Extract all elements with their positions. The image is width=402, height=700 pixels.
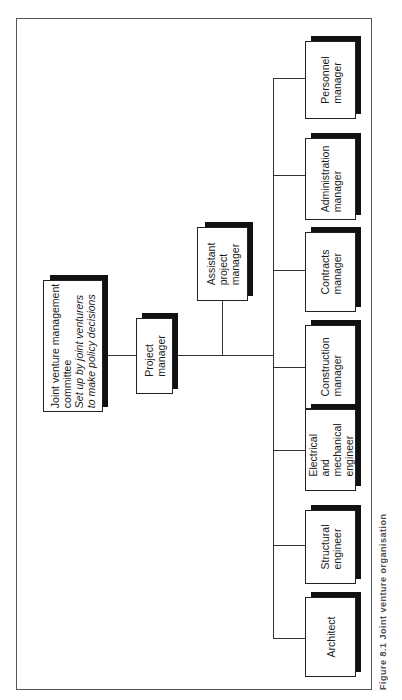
assistant-pm-label: Assistantprojectmanager bbox=[181, 243, 265, 286]
apm-line-1: Assistant bbox=[205, 243, 217, 286]
structural-label: Structuralengineer bbox=[295, 525, 367, 570]
apm-line-3: manager bbox=[229, 243, 241, 286]
department-bus bbox=[273, 78, 274, 638]
committee-subtitle-line-1: Set up by joint venturers bbox=[73, 284, 85, 408]
architect-box: Architect bbox=[305, 597, 356, 677]
committee-subtitle-line-2: to make policy decisions bbox=[85, 284, 97, 408]
contracts-line-1: Contracts bbox=[319, 250, 331, 295]
administration-label: Administrationmanager bbox=[295, 146, 367, 213]
personnel-line-1: Personnel bbox=[319, 56, 331, 103]
contracts-manager-box: Contractsmanager bbox=[305, 232, 356, 312]
contracts-line-2: manager bbox=[331, 250, 343, 295]
electrical-line-2: and bbox=[319, 423, 331, 476]
committee-label: Joint venture managementcommitteeSet up … bbox=[25, 284, 121, 408]
project-manager-box: Projectmanager bbox=[136, 318, 173, 394]
electrical-line-1: Electrical bbox=[307, 423, 319, 476]
personnel-manager-box: Personnelmanager bbox=[305, 41, 356, 119]
administration-line-1: Administration bbox=[319, 146, 331, 213]
structural-line-1: Structural bbox=[319, 525, 331, 570]
figure-caption: Figure 8.1 Joint venture organisation bbox=[378, 513, 388, 690]
personnel-label: Personnelmanager bbox=[295, 56, 367, 103]
architect-line-1: Architect bbox=[325, 617, 337, 658]
electrical-line-3: mechanical bbox=[331, 423, 343, 476]
connector-assistant-pm bbox=[222, 300, 223, 355]
electrical-line-4: engineer bbox=[343, 423, 355, 476]
pm-line-2: manager bbox=[155, 335, 167, 376]
committee-title-line-1: Joint venture management bbox=[49, 284, 61, 408]
construction-line-2: manager bbox=[331, 338, 343, 397]
project-manager-label: Projectmanager bbox=[119, 335, 191, 376]
structural-engineer-box: Structuralengineer bbox=[305, 510, 356, 584]
committee-box: Joint venture managementcommitteeSet up … bbox=[43, 280, 103, 412]
contracts-label: Contractsmanager bbox=[295, 250, 367, 295]
electrical-mechanical-engineer-box: Electricalandmechanicalengineer bbox=[305, 409, 356, 491]
committee-title-line-2: committee bbox=[61, 284, 73, 408]
apm-line-2: project bbox=[217, 243, 229, 286]
construction-line-1: Construction bbox=[319, 338, 331, 397]
personnel-line-2: manager bbox=[331, 56, 343, 103]
construction-manager-box: Constructionmanager bbox=[305, 325, 356, 409]
pm-line-1: Project bbox=[143, 335, 155, 376]
construction-label: Constructionmanager bbox=[295, 338, 367, 397]
assistant-project-manager-box: Assistantprojectmanager bbox=[197, 227, 248, 301]
administration-manager-box: Administrationmanager bbox=[305, 138, 356, 220]
electrical-label: Electricalandmechanicalengineer bbox=[283, 423, 379, 476]
architect-label: Architect bbox=[301, 617, 361, 658]
structural-line-2: engineer bbox=[331, 525, 343, 570]
administration-line-2: manager bbox=[331, 146, 343, 213]
